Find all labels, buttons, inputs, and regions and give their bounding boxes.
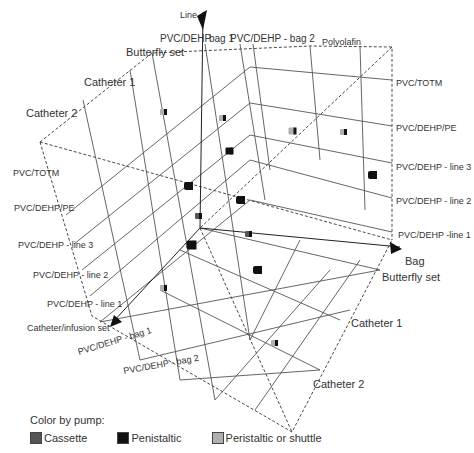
swatch-cassette-icon — [30, 432, 42, 444]
bag-axis-arrow-icon — [390, 242, 402, 254]
bag-axis-label: Bag — [405, 255, 425, 267]
tick-left-cath1: Catheter 1 — [84, 76, 135, 88]
frame — [40, 46, 392, 432]
scatter-3d-plot: Line Bag Catheter/infusion set PVC/DEHP … — [0, 0, 474, 453]
cat-axis-arrow-icon — [110, 315, 122, 327]
data-point — [184, 182, 193, 190]
tick-right-line3: PVC/DEHP - line 3 — [396, 162, 471, 172]
tick-left-line2: PVC/DEHP - line 2 — [33, 270, 108, 280]
data-point — [245, 231, 252, 237]
swatch-penistaltic-icon — [117, 432, 129, 444]
cat-axis-label: Catheter/infusion set — [27, 323, 110, 333]
legend-label: Peristaltic or shuttle — [226, 432, 322, 444]
data-point — [226, 148, 234, 155]
tick-right-butterfly: Butterfly set — [382, 271, 440, 283]
data-point — [368, 171, 377, 179]
data-point — [340, 129, 347, 135]
tick-right-cath2: Catheter 2 — [313, 378, 364, 390]
tick-top-bag2: PVC/DEHP - bag 2 — [230, 33, 315, 44]
data-point — [195, 213, 202, 219]
swatch-peristaltic-shuttle-icon — [212, 432, 224, 444]
line-axis-label: Line — [180, 10, 197, 20]
tick-top-bag1: PVC/DEHP — [160, 33, 211, 44]
tick-left-butterfly: Butterfly set — [126, 46, 184, 58]
tick-right-pe: PVC/DEHP/PE — [396, 123, 457, 133]
tick-top-poly: Polyolafin — [322, 37, 361, 47]
data-point — [160, 109, 167, 115]
tick-right-line1: PVC/DEHP -line 1 — [398, 230, 471, 240]
data-point — [289, 128, 297, 135]
tick-left-line1: PVC/DEHP - line 1 — [47, 299, 122, 309]
data-point — [271, 340, 278, 346]
tick-right-totm: PVC/TOTM — [396, 78, 442, 88]
data-points — [160, 109, 377, 346]
tick-right-line2: PVC/DEHP - line 2 — [396, 196, 471, 206]
tick-left-totm: PVC/TOTM — [13, 168, 59, 178]
data-point — [219, 115, 226, 121]
legend-label: Penistaltic — [131, 432, 181, 444]
data-point — [187, 241, 197, 250]
tick-right-cath1: Catheter 1 — [351, 317, 402, 329]
data-point — [160, 285, 167, 291]
grid — [66, 44, 392, 410]
data-point — [253, 266, 262, 274]
tick-left-cath2: Catheter 2 — [26, 107, 77, 119]
line-axis-arrow-icon — [197, 10, 207, 30]
legend: Color by pump: Cassette Penistaltic Peri… — [30, 414, 344, 444]
legend-title: Color by pump: — [30, 414, 344, 426]
legend-label: Cassette — [44, 432, 87, 444]
legend-item-cassette: Cassette — [30, 432, 87, 444]
tick-left-line3: PVC/DEHP - line 3 — [18, 240, 93, 250]
legend-item-penistaltic: Penistaltic — [117, 432, 181, 444]
data-point — [236, 196, 245, 204]
tick-left-pe: PVC/DEHP/PE — [14, 203, 75, 213]
legend-item-peristaltic-shuttle: Peristaltic or shuttle — [212, 432, 322, 444]
